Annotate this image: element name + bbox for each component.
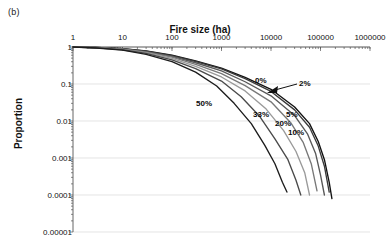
curve-label-2pct: 2% <box>299 79 311 88</box>
curve-label-0pct: 0% <box>255 76 267 85</box>
curve-label-5pct: 5% <box>286 110 298 119</box>
curve-50pct <box>73 47 287 192</box>
arrow-2pct-line <box>275 84 297 90</box>
chart-plot-area <box>0 0 391 245</box>
figure-panel-b: (b) Fire size (ha) Proportion 1101001000… <box>0 0 391 245</box>
curve-label-33pct: 33% <box>253 110 269 119</box>
curve-label-10pct: 10% <box>288 128 304 137</box>
arrow-2pct-head <box>267 86 278 93</box>
curve-label-50pct: 50% <box>196 99 212 108</box>
curve-label-20pct: 20% <box>275 119 291 128</box>
